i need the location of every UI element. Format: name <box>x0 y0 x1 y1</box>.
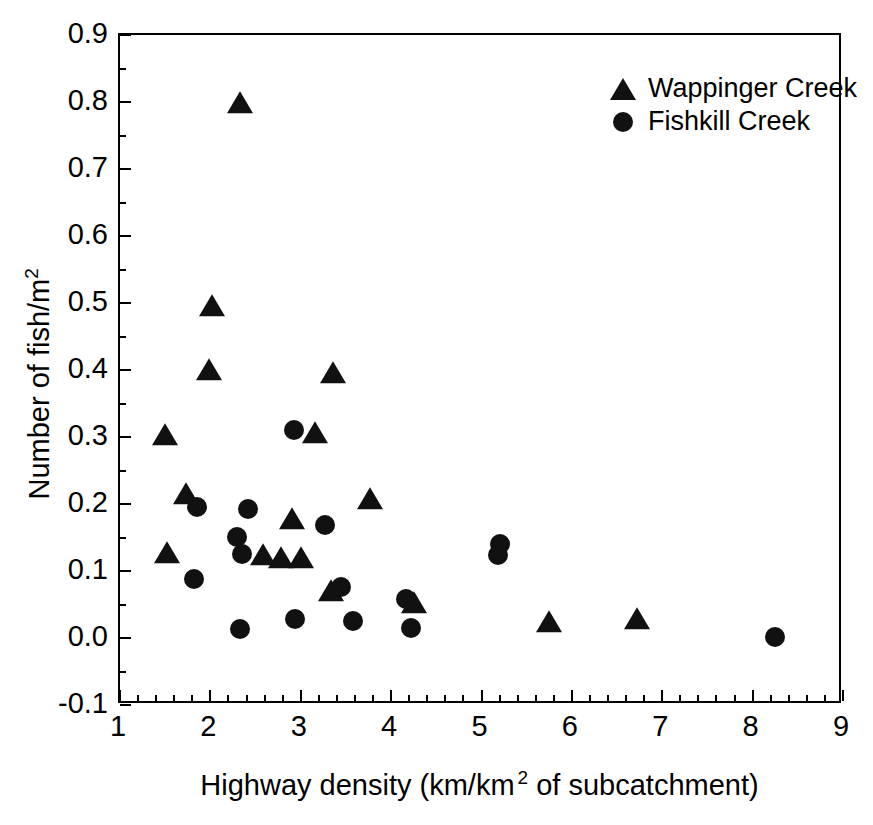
x-tick-minor <box>444 695 446 701</box>
y-tick-label: 0.5 <box>68 287 108 316</box>
data-point-fishkill-creek <box>488 545 508 565</box>
x-tick-major <box>119 690 121 701</box>
data-point-wappinger-creek <box>199 295 225 317</box>
data-point-wappinger-creek <box>624 608 650 630</box>
x-tick-label: 9 <box>833 712 849 741</box>
data-point-fishkill-creek <box>285 609 305 629</box>
y-tick-minor <box>120 470 126 472</box>
x-axis-title-text-after: of subcatchment) <box>528 769 759 801</box>
x-axis-tick-labels: 123456789 <box>118 712 841 752</box>
data-point-fishkill-creek <box>187 497 207 517</box>
y-tick-major <box>120 704 131 706</box>
y-tick-minor <box>120 135 126 137</box>
y-tick-major <box>120 168 131 170</box>
y-tick-minor <box>120 671 126 673</box>
y-tick-major <box>120 101 131 103</box>
x-tick-major <box>571 690 573 701</box>
y-tick-minor <box>120 202 126 204</box>
x-tick-minor <box>607 695 609 701</box>
y-tick-minor <box>120 604 126 606</box>
x-tick-minor <box>806 695 808 701</box>
data-point-wappinger-creek <box>302 421 328 443</box>
data-point-wappinger-creek <box>227 92 253 114</box>
data-point-fishkill-creek <box>315 515 335 535</box>
y-tick-minor <box>120 537 126 539</box>
legend: Wappinger Creek Fishkill Creek <box>606 72 857 138</box>
data-point-wappinger-creek <box>357 487 383 509</box>
y-tick-major <box>120 436 131 438</box>
x-tick-label: 3 <box>291 712 307 741</box>
y-tick-major <box>120 369 131 371</box>
x-tick-minor <box>499 695 501 701</box>
legend-entry-fishkill-creek: Fishkill Creek <box>606 105 857 138</box>
y-tick-major <box>120 34 131 36</box>
x-tick-minor <box>372 695 374 701</box>
x-tick-minor <box>137 695 139 701</box>
x-tick-minor <box>517 695 519 701</box>
x-tick-minor <box>155 695 157 701</box>
x-tick-minor <box>734 695 736 701</box>
legend-entry-wappinger-creek: Wappinger Creek <box>606 72 857 105</box>
data-point-fishkill-creek <box>284 420 304 440</box>
y-tick-major <box>120 503 131 505</box>
x-axis-title-text: Highway density (km/km <box>200 769 514 801</box>
y-tick-label: 0.7 <box>68 153 108 182</box>
y-tick-minor <box>120 336 126 338</box>
x-tick-minor <box>191 695 193 701</box>
data-point-fishkill-creek <box>232 544 252 564</box>
data-point-wappinger-creek <box>154 541 180 563</box>
x-tick-minor <box>679 695 681 701</box>
plot-area: Wappinger Creek Fishkill Creek <box>118 33 841 703</box>
x-tick-minor <box>715 695 717 701</box>
y-tick-minor <box>120 403 126 405</box>
data-point-fishkill-creek <box>238 499 258 519</box>
x-tick-label: 1 <box>110 712 126 741</box>
data-point-wappinger-creek <box>288 547 314 569</box>
x-tick-major <box>752 690 754 701</box>
y-tick-label: 0.0 <box>68 622 108 651</box>
data-point-fishkill-creek <box>396 589 416 609</box>
y-tick-label: 0.8 <box>68 86 108 115</box>
x-tick-minor <box>697 695 699 701</box>
x-tick-minor <box>824 695 826 701</box>
y-tick-label: 0.1 <box>68 555 108 584</box>
x-tick-minor <box>173 695 175 701</box>
x-tick-minor <box>264 695 266 701</box>
y-tick-label: 0.4 <box>68 354 108 383</box>
x-tick-label: 8 <box>743 712 759 741</box>
data-point-fishkill-creek <box>331 577 351 597</box>
x-tick-minor <box>246 695 248 701</box>
y-tick-minor <box>120 269 126 271</box>
data-point-fishkill-creek <box>401 618 421 638</box>
x-tick-minor <box>336 695 338 701</box>
x-tick-major <box>209 690 211 701</box>
x-tick-label: 6 <box>562 712 578 741</box>
x-tick-minor <box>589 695 591 701</box>
y-axis-title: Number of fish/m2 <box>22 49 54 719</box>
x-tick-major <box>300 690 302 701</box>
x-tick-major <box>481 690 483 701</box>
x-tick-minor <box>408 695 410 701</box>
circle-marker-icon <box>606 112 640 132</box>
y-tick-major <box>120 235 131 237</box>
y-tick-label: 0.6 <box>68 220 108 249</box>
data-point-wappinger-creek <box>320 362 346 384</box>
y-tick-major <box>120 570 131 572</box>
triangle-marker-icon <box>606 78 640 100</box>
x-tick-minor <box>553 695 555 701</box>
x-tick-minor <box>625 695 627 701</box>
x-tick-minor <box>643 695 645 701</box>
x-tick-label: 5 <box>471 712 487 741</box>
y-tick-label: 0.9 <box>68 19 108 48</box>
x-tick-minor <box>770 695 772 701</box>
legend-label-wappinger-creek: Wappinger Creek <box>648 75 857 102</box>
data-point-fishkill-creek <box>184 569 204 589</box>
x-axis-title-exponent: 2 <box>518 767 529 788</box>
x-tick-minor <box>318 695 320 701</box>
x-tick-label: 4 <box>381 712 397 741</box>
x-tick-major <box>661 690 663 701</box>
x-tick-minor <box>227 695 229 701</box>
data-point-wappinger-creek <box>536 610 562 632</box>
x-tick-major <box>842 690 844 701</box>
data-point-fishkill-creek <box>343 611 363 631</box>
